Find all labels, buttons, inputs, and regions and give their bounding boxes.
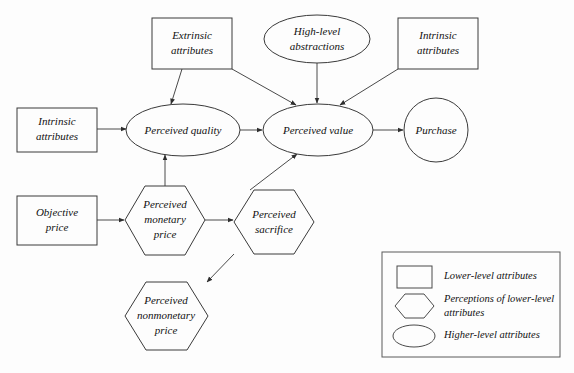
edge-extrinsic-to-perceived-quality	[171, 69, 182, 104]
intrinsic-attributes-left-label-line2: attributes	[36, 130, 78, 142]
edge-perceived-sacrifice-to-perceived-nonmonetary-price	[207, 254, 234, 282]
node-perceived-monetary-price[interactable]: Perceived monetary price	[125, 186, 205, 255]
perceived-monetary-price-label-line2: monetary	[144, 213, 186, 225]
intrinsic-attributes-top-label-line1: Intrinsic	[418, 29, 456, 41]
node-intrinsic-attributes-left[interactable]: Intrinsic attributes	[17, 108, 97, 152]
diagram-canvas: Extrinsic attributes High-level abstract…	[0, 0, 574, 373]
perceived-nonmonetary-price-label-line3: price	[154, 324, 178, 336]
perceived-nonmonetary-price-label-line2: nonmonetary	[137, 309, 195, 321]
perceived-quality-label: Perceived quality	[144, 124, 222, 136]
node-perceived-nonmonetary-price[interactable]: Perceived nonmonetary price	[125, 282, 208, 350]
legend-label-higher-level-attributes: Higher-level attributes	[443, 329, 540, 340]
edge-intrinsic-top-to-perceived-value	[340, 69, 398, 105]
objective-price-label-line1: Objective	[36, 206, 78, 218]
extrinsic-attributes-label-line1: Extrinsic	[171, 29, 212, 41]
objective-price-label-line2: price	[45, 221, 69, 233]
node-perceived-quality[interactable]: Perceived quality	[126, 104, 240, 156]
intrinsic-attributes-left-label-line1: Intrinsic	[37, 115, 75, 127]
perceived-sacrifice-label-line1: Perceived	[251, 208, 296, 220]
legend-ellipse-icon	[393, 325, 435, 347]
perceived-value-label: Perceived value	[282, 124, 353, 136]
node-high-level-abstractions[interactable]: High-level abstractions	[264, 15, 370, 63]
perceived-sacrifice-label-line2: sacrifice	[255, 223, 293, 235]
legend-label-lower-level-attributes: Lower-level attributes	[443, 270, 537, 281]
means-end-model-diagram: Extrinsic attributes High-level abstract…	[0, 0, 574, 373]
high-level-abstractions-label-line2: abstractions	[290, 40, 344, 52]
legend-label-perceptions-line1: Perceptions of lower-level	[443, 293, 554, 304]
node-intrinsic-attributes-top[interactable]: Intrinsic attributes	[398, 18, 478, 69]
node-purchase[interactable]: Purchase	[404, 98, 468, 162]
node-perceived-value[interactable]: Perceived value	[263, 104, 373, 156]
edge-extrinsic-to-perceived-value	[232, 69, 296, 105]
node-extrinsic-attributes[interactable]: Extrinsic attributes	[152, 18, 232, 69]
perceived-monetary-price-label-line1: Perceived	[142, 198, 187, 210]
edge-perceived-sacrifice-to-perceived-value	[250, 154, 297, 190]
high-level-abstractions-label-line1: High-level	[293, 25, 340, 37]
perceived-monetary-price-label-line3: price	[153, 228, 177, 240]
node-objective-price[interactable]: Objective price	[17, 196, 97, 245]
legend: Lower-level attributes Perceptions of lo…	[382, 252, 560, 357]
intrinsic-attributes-top-label-line2: attributes	[417, 44, 459, 56]
extrinsic-attributes-label-line2: attributes	[171, 44, 213, 56]
legend-label-perceptions-line2: attributes	[444, 307, 484, 318]
purchase-label: Purchase	[414, 124, 456, 136]
perceived-nonmonetary-price-label-line1: Perceived	[143, 294, 188, 306]
legend-rectangle-icon	[397, 266, 432, 288]
node-perceived-sacrifice[interactable]: Perceived sacrifice	[234, 190, 314, 254]
